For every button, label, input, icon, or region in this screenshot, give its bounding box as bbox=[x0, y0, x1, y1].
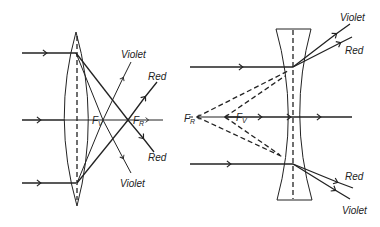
top-ray-to-red-focus bbox=[76, 53, 128, 120]
bottom-ray-to-violet-focus bbox=[77, 120, 103, 183]
label-focus-violet: FV bbox=[92, 115, 104, 127]
chromatic-aberration-diagram: Violet Red Red Violet FV FR bbox=[0, 0, 380, 227]
convex-lens-figure: Violet Red Red Violet FV FR bbox=[22, 32, 167, 206]
label-focus-red: FR bbox=[133, 115, 144, 127]
label-violet-bottom: Violet bbox=[120, 178, 146, 189]
concave-lens-figure: Violet Red Red Violet FR FV bbox=[184, 12, 368, 216]
virtual-ray-red-bottom bbox=[197, 117, 283, 157]
bottom-ray-red-out bbox=[293, 164, 353, 188]
label-red-bottom: Red bbox=[345, 171, 364, 182]
concave-lens-outline bbox=[276, 29, 312, 200]
convex-lens-outline bbox=[64, 32, 88, 206]
top-ray-violet-out bbox=[293, 24, 350, 67]
label-violet-bottom: Violet bbox=[342, 205, 368, 216]
virtual-ray-violet-top bbox=[225, 76, 285, 117]
bottom-ray-to-red-focus bbox=[77, 120, 128, 183]
bottom-ray-violet-continued bbox=[103, 62, 131, 120]
virtual-ray-violet-bottom bbox=[225, 117, 280, 155]
label-red-top: Red bbox=[345, 45, 364, 56]
top-ray-to-violet-focus bbox=[76, 53, 103, 120]
label-red-top: Red bbox=[148, 71, 167, 82]
label-focus-red: FR bbox=[184, 113, 195, 125]
top-ray-red-out bbox=[293, 37, 352, 67]
label-violet-top: Violet bbox=[121, 49, 147, 60]
virtual-ray-red-top bbox=[197, 71, 288, 117]
bottom-ray-violet-out bbox=[293, 164, 350, 199]
label-violet-top: Violet bbox=[340, 12, 366, 23]
label-focus-violet: FV bbox=[236, 112, 248, 124]
label-red-bottom: Red bbox=[148, 152, 167, 163]
